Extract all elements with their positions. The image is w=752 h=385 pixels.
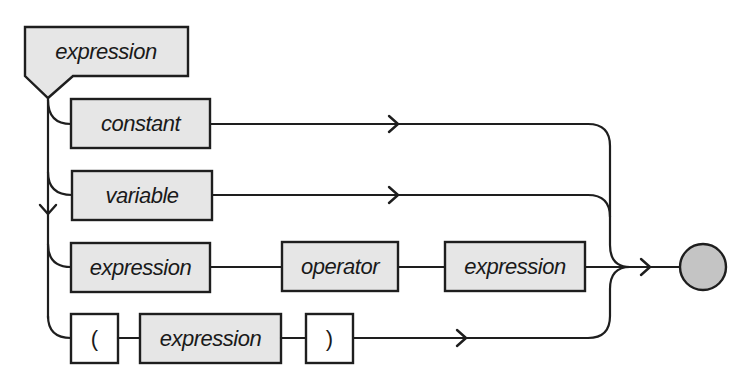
constant-label: constant bbox=[101, 111, 182, 136]
variable-connector bbox=[212, 195, 610, 217]
expression-label-left: expression bbox=[90, 255, 192, 280]
left-trunk bbox=[40, 98, 72, 338]
branch-curve-constant bbox=[48, 100, 71, 124]
title-box: expression bbox=[25, 27, 188, 98]
expression-label-right: expression bbox=[464, 254, 566, 279]
end-node-circle bbox=[680, 244, 726, 290]
branch-curve-paren bbox=[48, 316, 71, 338]
row-binary-operation: expression operator expression bbox=[71, 242, 680, 292]
row-variable: variable bbox=[72, 171, 610, 220]
title-label: expression bbox=[55, 39, 157, 64]
branch-curve-binary bbox=[48, 244, 71, 267]
close-paren-label: ) bbox=[326, 326, 333, 351]
open-paren-label: ( bbox=[91, 326, 99, 351]
branch-curve-variable bbox=[48, 172, 72, 195]
variable-label: variable bbox=[105, 183, 178, 208]
operator-label: operator bbox=[301, 254, 381, 279]
expression-syntax-diagram: expression constant variable expression … bbox=[0, 0, 752, 385]
expression-label-paren: expression bbox=[160, 326, 262, 351]
